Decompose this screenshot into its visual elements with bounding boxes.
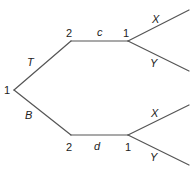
action-label-t: T <box>27 56 35 68</box>
action-label-bottom-y: Y <box>150 151 158 163</box>
action-label-top-x: X <box>151 13 160 25</box>
edge-top-y <box>128 41 189 71</box>
action-label-d: d <box>94 140 101 152</box>
game-tree-diagram: 1 2 1 2 1 T B c d X Y X Y <box>0 0 196 173</box>
action-label-bottom-x: X <box>150 107 159 119</box>
node-label-bottom-right: 1 <box>125 141 131 153</box>
edge-root-bottom <box>14 90 71 135</box>
edge-root-top <box>14 41 71 90</box>
node-label-top-mid: 2 <box>66 27 72 39</box>
action-label-c: c <box>97 26 103 38</box>
node-label-top-right: 1 <box>123 27 129 39</box>
action-label-top-y: Y <box>150 57 158 69</box>
action-label-b: B <box>25 109 32 121</box>
node-label-root: 1 <box>4 84 10 96</box>
edge-bottom-y <box>128 135 189 165</box>
edge-bottom-x <box>128 105 189 135</box>
node-label-bottom-mid: 2 <box>66 141 72 153</box>
